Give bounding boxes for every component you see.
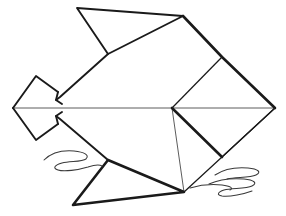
origami-figure xyxy=(0,0,286,216)
origami-fish-diagram xyxy=(0,0,286,216)
